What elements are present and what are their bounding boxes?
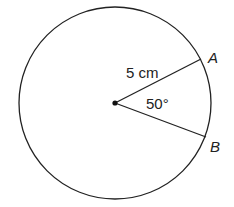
radius-label: 5 cm <box>126 64 159 81</box>
circle-diagram: 5 cm 50° A B <box>0 0 234 207</box>
point-b-label: B <box>210 138 220 155</box>
angle-label: 50° <box>146 95 169 112</box>
center-point <box>112 100 117 105</box>
point-a-label: A <box>207 49 218 66</box>
